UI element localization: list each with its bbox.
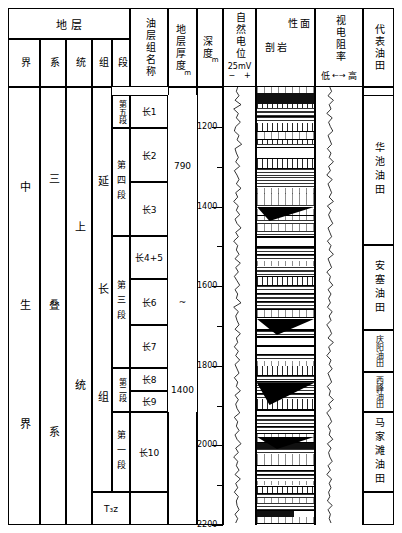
lithology-band bbox=[257, 123, 314, 131]
lithology-lens bbox=[257, 207, 314, 221]
depth-tick-label: 1400 bbox=[197, 202, 211, 211]
depth-axis-column bbox=[197, 87, 223, 525]
lithology-lens bbox=[257, 437, 314, 449]
header-sp: 自然电位 25mV − + bbox=[223, 8, 256, 87]
oil-group-row-blank bbox=[130, 492, 168, 525]
duan-label: 第五段 bbox=[117, 100, 125, 124]
lithology-band bbox=[257, 487, 314, 494]
header-thickness: 地层厚度 m bbox=[168, 8, 197, 87]
header-oil-group-name: 油层组名称 bbox=[130, 8, 168, 87]
oilfield-label: 庆阳油田 bbox=[375, 335, 383, 367]
duan-row: 第四段 bbox=[112, 128, 130, 236]
header-lithology: 剖 岩 性 面 bbox=[256, 8, 315, 87]
oil-group-label: 长9 bbox=[142, 395, 157, 408]
lithology-band bbox=[257, 310, 314, 317]
resistivity-log-track bbox=[315, 87, 363, 525]
oil-group-label: 长3 bbox=[142, 203, 157, 216]
strata-xi-cell: 三 叠 系 bbox=[40, 87, 66, 525]
oil-group-label: 长7 bbox=[142, 340, 157, 353]
oil-group-label: 长2 bbox=[142, 149, 157, 162]
duan-row: 第一段 bbox=[112, 412, 130, 492]
oil-group-row: 长7 bbox=[130, 325, 168, 368]
resistivity-curve bbox=[316, 87, 362, 523]
sp-polarity-plus: + bbox=[244, 71, 251, 80]
lithology-band bbox=[257, 147, 314, 159]
oil-group-row: 长4+5 bbox=[130, 236, 168, 279]
header-col-jie: 界 bbox=[8, 39, 40, 87]
oil-group-row: 长2 bbox=[130, 128, 168, 182]
depth-tick-label: 1200 bbox=[197, 122, 211, 131]
oilfield-row: 安塞油田 bbox=[363, 245, 394, 330]
lithology-band bbox=[257, 346, 314, 355]
lithology-track bbox=[256, 87, 315, 525]
header-col-zu: 组 bbox=[92, 39, 112, 87]
oil-group-row: 长9 bbox=[130, 391, 168, 412]
lithology-band bbox=[257, 286, 314, 292]
oilfield-row: 西峰油田 bbox=[363, 372, 394, 412]
thickness-value: ~ bbox=[179, 297, 187, 307]
oil-group-label: 长1 bbox=[142, 105, 157, 118]
oilfield-label: 马家滩油田 bbox=[373, 417, 384, 487]
header-strata-group: 地 层 bbox=[8, 8, 130, 39]
duan-row: 第五段 bbox=[112, 95, 130, 128]
sp-curve bbox=[224, 87, 255, 523]
depth-tick-label: 2000 bbox=[197, 440, 211, 449]
oil-group-label: 长4+5 bbox=[135, 251, 163, 264]
oilfield-row-blank bbox=[363, 492, 394, 525]
strata-zu-cell: 延 长 组 bbox=[92, 87, 112, 492]
oilfield-row: 马家滩油田 bbox=[363, 412, 394, 492]
header-col-tong: 统 bbox=[66, 39, 92, 87]
oilfield-label: 华池油田 bbox=[373, 142, 384, 198]
depth-tick-label: 1800 bbox=[197, 361, 211, 370]
lithology-lens bbox=[257, 319, 314, 335]
oil-group-label: 长10 bbox=[139, 446, 159, 459]
strata-tong-cell: 上 统 bbox=[66, 87, 92, 525]
lithology-pattern bbox=[257, 87, 314, 523]
duan-label: 第一段 bbox=[116, 430, 125, 475]
lithology-band bbox=[257, 159, 314, 168]
thickness-value: 1400 bbox=[171, 385, 194, 395]
duan-label: 第四段 bbox=[116, 160, 125, 205]
thickness-value: 790 bbox=[174, 161, 191, 171]
lithology-separator bbox=[257, 523, 314, 524]
oil-group-row: 长8 bbox=[130, 368, 168, 391]
thickness-value-cell: 790 bbox=[168, 95, 197, 236]
oilfield-label: 安塞油田 bbox=[373, 260, 384, 316]
oil-group-label: 长6 bbox=[142, 296, 157, 309]
oil-group-row: 长3 bbox=[130, 182, 168, 236]
lithology-band bbox=[257, 277, 314, 285]
duan-label: 第三段 bbox=[116, 280, 125, 325]
oilfield-row: 华池油田 bbox=[363, 95, 394, 245]
header-depth: 深度 m bbox=[197, 8, 223, 87]
strata-zu-t3z-cell: T₃z bbox=[92, 492, 130, 525]
oil-group-row: 长1 bbox=[130, 95, 168, 128]
oil-group-row: 长10 bbox=[130, 412, 168, 492]
double-arrow-icon: ←→ bbox=[332, 71, 345, 80]
lithology-lens bbox=[257, 383, 314, 405]
duan-row: 第三段 bbox=[112, 236, 130, 368]
resistivity-high-label: 高 bbox=[348, 69, 357, 82]
resistivity-low-label: 低 bbox=[321, 69, 330, 82]
sp-log-track bbox=[223, 87, 256, 525]
lithology-band bbox=[257, 237, 314, 247]
thickness-value-cell: ~ bbox=[168, 236, 197, 368]
lithology-band bbox=[257, 93, 314, 104]
header-col-xi: 系 bbox=[40, 39, 66, 87]
lithology-band bbox=[257, 337, 314, 346]
lithology-band bbox=[257, 366, 314, 375]
duan-label: 第二段 bbox=[117, 378, 125, 402]
depth-tick-label: 1600 bbox=[197, 281, 211, 290]
header-oilfield: 代表油田 bbox=[363, 8, 394, 87]
depth-tick-label: 2200 bbox=[197, 520, 211, 529]
oil-group-row: 长6 bbox=[130, 279, 168, 325]
oilfield-label: 西峰油田 bbox=[375, 376, 383, 408]
oil-group-label: 长8 bbox=[142, 373, 157, 386]
thickness-value-cell: 1400 bbox=[168, 368, 197, 412]
lithology-band bbox=[257, 224, 314, 231]
strata-jie-cell: 中 生 界 bbox=[8, 87, 40, 525]
header-col-duan: 段 bbox=[112, 39, 130, 87]
duan-row: 第二段 bbox=[112, 368, 130, 412]
stratigraphic-column-figure: 地 层 界 系 统 组 段 油层组名称 地层厚度 m 深度 m 自然电位 25m… bbox=[0, 0, 402, 533]
sp-polarity-minus: − bbox=[228, 71, 235, 80]
header-resistivity: 视电阻率 低 ←→ 高 bbox=[315, 8, 363, 87]
